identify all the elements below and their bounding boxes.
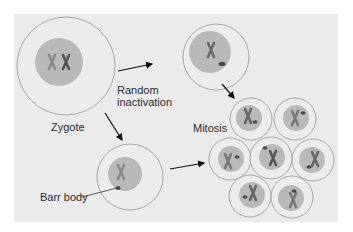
arrow-to-top-cell (118, 64, 152, 71)
daughter-cell (229, 175, 271, 217)
mitosis-label: Mitosis (193, 122, 227, 134)
daughter-cell (292, 139, 334, 181)
arrow-to-bottom-cell (105, 113, 122, 140)
daughter-cell (271, 176, 313, 218)
mitosis-cell-cluster (209, 98, 334, 218)
zygote-cell (17, 17, 115, 115)
daughter-cell (274, 98, 316, 140)
label-line: Random (117, 84, 172, 96)
zygote-label: Zygote (51, 121, 85, 133)
inactivation-cell-bottom (97, 144, 163, 210)
random-inactivation-label: Random inactivation (117, 84, 172, 108)
daughter-cell (230, 98, 272, 140)
daughter-cell (209, 138, 251, 180)
arrow-bottom-to-mitosis (170, 163, 204, 169)
daughter-cell (250, 137, 292, 179)
barr-body-label: Barr body (40, 191, 88, 203)
label-line: inactivation (117, 96, 172, 108)
inactivation-cell-top (183, 24, 249, 90)
